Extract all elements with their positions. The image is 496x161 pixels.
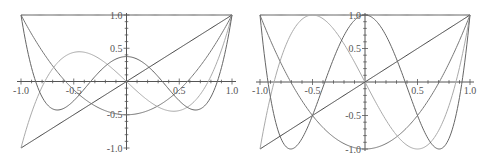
x-tick-label: -1.0	[252, 85, 268, 96]
legendre-plot: -1.0-0.50.51.01.00.5-0.5-1.0	[13, 10, 238, 154]
x-tick-label: -1.0	[13, 85, 29, 96]
y-tick-label: 0.5	[110, 43, 123, 54]
x-tick-label: 1.0	[464, 85, 477, 96]
x-tick-label: 0.5	[411, 85, 424, 96]
chebyshev-plot: -1.0-0.50.51.01.00.5-0.5-1.0	[252, 10, 476, 155]
x-tick-label: -0.5	[305, 85, 321, 96]
chart-canvas: -1.0-0.50.51.01.00.5-0.5-1.0 -1.0-0.50.5…	[0, 0, 496, 161]
x-tick-label: 1.0	[226, 85, 239, 96]
y-tick-label: -1.0	[107, 143, 123, 154]
y-tick-label: 0.5	[349, 43, 362, 54]
y-tick-label: -0.5	[345, 110, 361, 121]
